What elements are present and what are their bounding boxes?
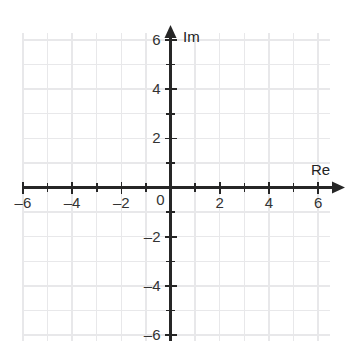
x-tick-label: 4 <box>265 194 273 211</box>
x-tick-label: –2 <box>113 194 130 211</box>
x-tick-label: –6 <box>15 194 32 211</box>
x-tick-label: 6 <box>314 194 322 211</box>
origin-label: 0 <box>156 191 164 208</box>
y-tick-label: –4 <box>144 277 161 294</box>
x-tick-label: 2 <box>216 194 224 211</box>
y-tick-label: –2 <box>144 228 161 245</box>
figure-background <box>0 0 349 363</box>
y-tick-label: 2 <box>152 129 160 146</box>
complex-plane-figure: –6–4–20246642–2–4–6 Im Re <box>0 0 349 363</box>
y-tick-label: 4 <box>152 80 160 97</box>
imaginary-axis-label: Im <box>183 28 200 45</box>
coordinate-plane-svg: –6–4–20246642–2–4–6 Im Re <box>0 0 349 363</box>
x-tick-label: –4 <box>64 194 81 211</box>
real-axis-label: Re <box>311 161 330 178</box>
y-tick-label: –6 <box>144 326 161 343</box>
y-tick-label: 6 <box>152 31 160 48</box>
